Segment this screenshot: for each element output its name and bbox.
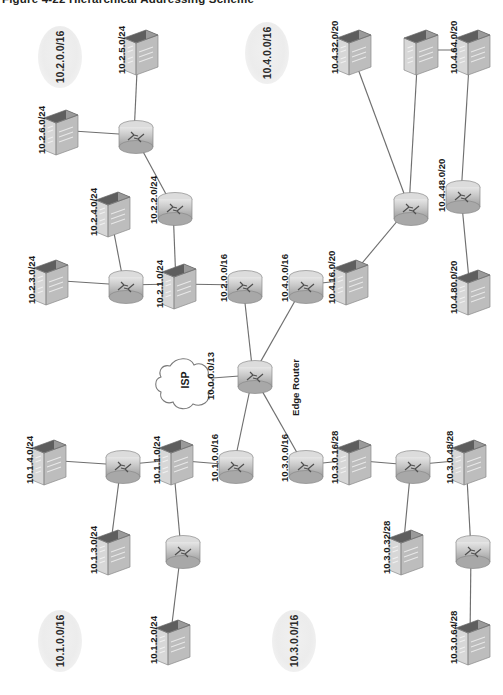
device-label-rt-edge: Edge Router xyxy=(290,359,301,416)
zone-label: 10.3.0.0/16 xyxy=(288,615,300,668)
zone-label: 10.1.0.0/16 xyxy=(54,615,66,668)
zone-label: 10.4.0.0/16 xyxy=(261,27,273,80)
device-label-rt-10-2-0: 10.2.0.0/16 xyxy=(218,254,229,302)
device-label-sw-10-2-5: 10.2.5.0/24 xyxy=(116,26,127,74)
router-rt-10-2-c[interactable] xyxy=(103,268,149,306)
device-label-sw-10-3-48: 10.3.0.48/28 xyxy=(444,431,455,484)
router-rt-edge[interactable] xyxy=(232,358,278,396)
device-label-sw-10-3-32: 10.3.0.32/28 xyxy=(381,521,392,574)
device-label-sw-10-2-1: 10.2.1.0/24 xyxy=(154,260,165,308)
device-label-sw-10-2-6: 10.2.6.0/24 xyxy=(36,106,47,154)
router-rt-10-2-a[interactable] xyxy=(113,118,159,156)
device-label-rt-10-4-0: 10.4.0.0/16 xyxy=(279,254,290,302)
device-label-sw-10-4-80: 10.4.80.0/20 xyxy=(448,261,459,314)
device-label-rt-10-1-0: 10.1.0.0/16 xyxy=(209,434,220,482)
device-label-sw-10-1-2: 10.1.2.0/24 xyxy=(148,616,159,664)
router-rt-10-1-b[interactable] xyxy=(160,533,206,571)
router-rt-10-3-b[interactable] xyxy=(450,533,496,571)
device-label-sw-10-4-64: 10.4.64.0/20 xyxy=(448,21,459,74)
zone-10-2-0-0-16: 10.2.0.0/16 xyxy=(38,26,82,88)
router-rt-10-1-a[interactable] xyxy=(100,448,146,486)
router-rt-10-4-a[interactable] xyxy=(388,190,434,228)
zone-10-3-0-0-16: 10.3.0.0/16 xyxy=(272,610,316,672)
switch-sw-10-4-mid[interactable] xyxy=(400,28,442,78)
device-label-sw-10-1-3: 10.1.3.0/24 xyxy=(88,526,99,574)
device-label-rt-10-4-b: 10.4.48.0/20 xyxy=(436,159,447,212)
device-label-sw-10-1-4: 10.1.4.0/24 xyxy=(24,436,35,484)
device-label-sw-10-4-32: 10.4.32.0/20 xyxy=(329,21,340,74)
device-label-sw-10-3-16: 10.3.0.16/28 xyxy=(329,431,340,484)
device-label-rt-10-2-b: 10.2.2.0/24 xyxy=(148,176,159,224)
zone-10-4-0-0-16: 10.4.0.0/16 xyxy=(245,22,289,84)
device-label-sw-10-1-1: 10.1.1.0/24 xyxy=(151,436,162,484)
device-label-sw-10-4-16: 10.4.16.0/20 xyxy=(326,251,337,304)
device-label-rt-10-3-0: 10.3.0.0/16 xyxy=(279,434,290,482)
device-label-sw-10-3-64: 10.3.0.64/28 xyxy=(448,611,459,664)
isp-link-label: 10.0.0.0/13 xyxy=(205,352,216,400)
link-layer xyxy=(0,0,503,695)
device-label-sw-10-2-3: 10.2.3.0/24 xyxy=(26,256,37,304)
router-rt-10-3-a[interactable] xyxy=(390,448,436,486)
device-label-sw-10-2-4: 10.2.4.0/24 xyxy=(88,188,99,236)
zone-label: 10.2.0.0/16 xyxy=(54,31,66,84)
diagram-canvas: Figure 4-22 Hierarchical Addressing Sche… xyxy=(0,0,503,695)
zone-10-1-0-0-16: 10.1.0.0/16 xyxy=(38,610,82,672)
